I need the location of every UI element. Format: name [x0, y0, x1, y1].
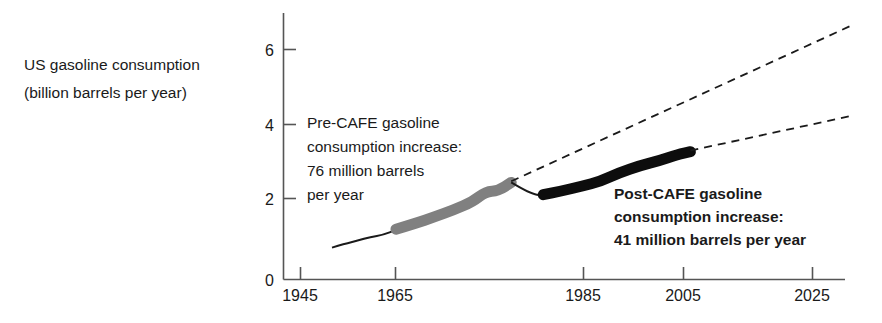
y-axis-title-line-2: (billion barrels per year): [24, 84, 187, 101]
pre-cafe-annotation-line-2: consumption increase:: [307, 138, 462, 155]
series-path: [396, 182, 511, 229]
x-tick-label-1945: 1945: [282, 287, 318, 304]
y-axis-ticks: 6 4 2 0: [265, 42, 296, 289]
x-tick-label-1985: 1985: [565, 287, 601, 304]
y-tick-label-2: 2: [265, 191, 274, 208]
post-cafe-annotation-line-3: 41 million barrels per year: [614, 231, 806, 248]
x-tick-label-2005: 2005: [665, 287, 701, 304]
y-axis-title-line-1: US gasoline consumption: [24, 56, 200, 73]
series-path: [690, 116, 850, 151]
pre-cafe-annotation-line-4: per year: [307, 186, 364, 203]
y-tick-label-6: 6: [265, 42, 274, 59]
pre-cafe-annotation: Pre-CAFE gasoline consumption increase: …: [307, 114, 462, 203]
series-path: [332, 230, 396, 248]
pre-cafe-annotation-line-3: 76 million barrels: [307, 162, 424, 179]
y-tick-label-4: 4: [265, 117, 274, 134]
post-cafe-annotation-line-1: Post-CAFE gasoline: [614, 185, 763, 202]
x-tick-label-2025: 2025: [794, 287, 830, 304]
y-tick-label-0: 0: [265, 272, 274, 289]
pre-cafe-annotation-line-1: Pre-CAFE gasoline: [307, 114, 440, 131]
post-cafe-annotation-line-2: consumption increase:: [614, 208, 784, 225]
x-tick-label-1965: 1965: [377, 287, 413, 304]
y-axis-title: US gasoline consumption (billion barrels…: [24, 56, 200, 101]
x-axis-ticks: 1945 1965 1985 2005 2025: [282, 267, 830, 304]
post-cafe-annotation: Post-CAFE gasoline consumption increase:…: [614, 185, 806, 248]
chart-figure: US gasoline consumption (billion barrels…: [0, 0, 882, 323]
